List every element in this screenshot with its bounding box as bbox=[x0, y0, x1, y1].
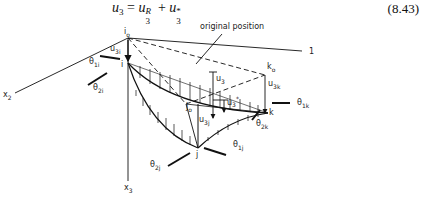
label-u3j: u3j bbox=[199, 115, 210, 126]
node-k-label: k bbox=[269, 108, 274, 117]
axis-x3-label: x3 bbox=[124, 183, 133, 194]
axis-x1-label: 1 bbox=[309, 47, 314, 56]
label-theta-2k: θ2k bbox=[256, 119, 268, 130]
node-j-label: j bbox=[196, 150, 198, 159]
label-u3k: u3k bbox=[268, 79, 280, 90]
label-u3-star: u3* bbox=[227, 95, 239, 108]
label-u3: u3 bbox=[216, 74, 225, 85]
label-theta-1k: θ1k bbox=[297, 98, 309, 109]
annotation-original-position: original position bbox=[200, 22, 264, 31]
label-theta-1j: θ1j bbox=[233, 140, 243, 151]
label-theta-2j: θ2j bbox=[150, 160, 160, 171]
node-i-label: i bbox=[121, 60, 123, 69]
node-j0-label: jo bbox=[186, 102, 192, 113]
axis-x1-line bbox=[128, 38, 302, 51]
label-u3i: u3i bbox=[110, 44, 121, 55]
label-theta-1i: θ1i bbox=[89, 57, 99, 68]
axis-x2-label: x2 bbox=[3, 90, 12, 101]
label-theta-2i: θ2i bbox=[93, 83, 103, 94]
node-i0-label: io bbox=[124, 27, 130, 38]
node-k0-label: ko bbox=[267, 62, 275, 73]
